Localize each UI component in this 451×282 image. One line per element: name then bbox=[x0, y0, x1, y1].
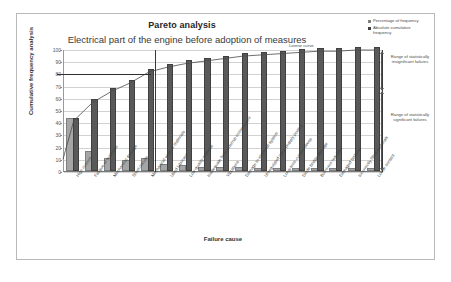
legend-label-percentage: Percentage of frequency bbox=[373, 18, 419, 23]
reference-line-80 bbox=[57, 74, 151, 75]
y-tick-mark bbox=[60, 123, 62, 124]
x-axis-title: Failure cause bbox=[63, 236, 383, 242]
y-tick-mark bbox=[60, 148, 62, 149]
legend-item-percentage: Percentage of frequency bbox=[368, 18, 430, 23]
y-tick-mark bbox=[60, 62, 62, 63]
chart-title: Pareto analysis bbox=[17, 20, 347, 30]
y-tick-label: 90 bbox=[47, 59, 61, 65]
y-tick-label: 30 bbox=[47, 132, 61, 138]
plot-right-boundary bbox=[382, 50, 383, 172]
y-axis-title: Cumulative frequency analysis bbox=[28, 11, 34, 131]
x-axis-category-labels: High currentFatigue of materialsMechanic… bbox=[63, 173, 383, 235]
range-significant-note: Range of statistically significant failu… bbox=[388, 112, 432, 122]
legend-swatch-percentage bbox=[368, 20, 371, 23]
y-tick-mark bbox=[60, 160, 62, 161]
significance-divider bbox=[155, 50, 156, 172]
y-tick-label: 70 bbox=[47, 84, 61, 90]
y-tick-label: 10 bbox=[47, 157, 61, 163]
range-insignificant-bracket bbox=[381, 54, 382, 88]
y-tick-mark bbox=[60, 172, 62, 173]
y-tick-mark bbox=[60, 50, 62, 51]
y-tick-label: 0 bbox=[47, 169, 61, 175]
lorenz-curve-label: Lorenz curve bbox=[289, 43, 314, 48]
y-tick-mark bbox=[60, 111, 62, 112]
y-tick-label: 50 bbox=[47, 108, 61, 114]
y-axis-ticks: 0102030405060708090100 bbox=[45, 50, 61, 172]
range-significant-arrow-bottom bbox=[380, 168, 384, 171]
y-tick-mark bbox=[60, 87, 62, 88]
legend-label-cumulative: Absolute cumulative frequency bbox=[373, 25, 430, 35]
y-tick-mark bbox=[60, 135, 62, 136]
range-insignificant-note: Range of statistically insignificant fai… bbox=[388, 54, 432, 64]
y-tick-label: 100 bbox=[47, 47, 61, 53]
y-tick-label: 40 bbox=[47, 120, 61, 126]
legend-item-cumulative: Absolute cumulative frequency bbox=[368, 25, 430, 35]
range-significant-bracket bbox=[381, 94, 382, 168]
range-significant-arrow-top bbox=[380, 91, 384, 94]
y-tick-mark bbox=[60, 99, 62, 100]
chart-legend: Percentage of frequency Absolute cumulat… bbox=[368, 18, 430, 38]
screenshot-page: Pareto analysis Electrical part of the e… bbox=[0, 0, 451, 282]
legend-swatch-cumulative bbox=[368, 27, 371, 30]
y-tick-label: 20 bbox=[47, 145, 61, 151]
chart-frame: Pareto analysis Electrical part of the e… bbox=[16, 13, 435, 260]
range-insignificant-arrow-top bbox=[380, 51, 384, 54]
y-tick-label: 60 bbox=[47, 96, 61, 102]
